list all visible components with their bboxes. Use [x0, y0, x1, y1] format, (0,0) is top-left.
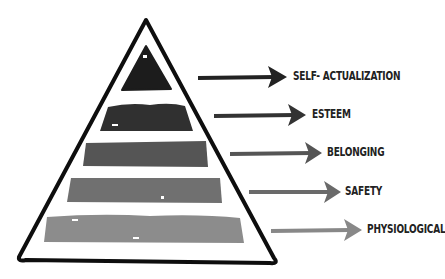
label-esteem: ESTEEM: [312, 108, 351, 121]
pyramid-level-safety: [67, 178, 222, 203]
arrow-physiological: [271, 219, 362, 241]
pyramid-level-esteem: [100, 104, 193, 131]
label-physiological: PHYSIOLOGICAL: [367, 223, 445, 236]
arrow-self-actualization: [198, 66, 287, 88]
pyramid-level-belonging: [83, 141, 208, 167]
arrow-belonging: [230, 142, 322, 164]
pyramid-level-physiological: [44, 215, 244, 243]
label-self-actualization: SELF- ACTUALIZATION: [293, 70, 400, 83]
arrow-safety: [249, 181, 341, 203]
arrow-esteem: [214, 104, 306, 126]
label-safety: SAFETY: [345, 185, 382, 198]
label-belonging: BELONGING: [327, 146, 384, 159]
